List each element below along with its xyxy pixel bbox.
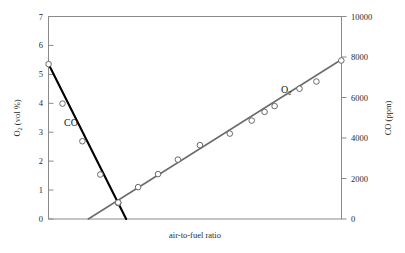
right-axis-ticks [342, 17, 347, 220]
left-tick-label-7: 7 [39, 12, 43, 22]
o2-point [314, 79, 320, 85]
left-tick-label-0: 0 [39, 214, 43, 224]
right-tick-label-4000: 4000 [351, 133, 368, 143]
o2-point [227, 131, 233, 137]
co-point [115, 200, 121, 206]
o2-point [272, 103, 278, 109]
right-tick-label-10000: 10000 [351, 12, 372, 22]
right-tick-label-8000: 8000 [351, 52, 368, 62]
plot-frame [49, 17, 342, 220]
left-tick-label-3: 3 [39, 127, 43, 137]
left-tick-label-4: 4 [39, 98, 44, 108]
o2-point [135, 184, 141, 190]
co-point [46, 61, 52, 67]
chart-canvas: 7 6 5 4 3 2 1 0 O2 (vol %) 10000 8000 60… [0, 0, 405, 253]
svg-text:O2 (vol %): O2 (vol %) [12, 99, 23, 136]
left-axis-title: O2 (vol %) [12, 99, 23, 136]
left-tick-label-1: 1 [39, 185, 43, 195]
o2-series-label: O2 [281, 84, 291, 96]
left-tick-label-2: 2 [39, 156, 43, 166]
co-point [60, 101, 66, 107]
left-axis-ticks [49, 17, 54, 220]
o2-point [339, 58, 345, 64]
chart-figure: 7 6 5 4 3 2 1 0 O2 (vol %) 10000 8000 60… [0, 0, 405, 253]
co-point [80, 138, 86, 144]
co-point [98, 172, 104, 178]
o2-trend-line [88, 60, 341, 220]
o2-point [262, 109, 268, 115]
x-axis-title: air-to-fuel ratio [169, 230, 221, 240]
o2-point [175, 157, 181, 163]
left-axis-title-rest: (vol %) [12, 99, 22, 127]
left-tick-label-6: 6 [39, 40, 43, 50]
o2-series-label-sub: 2 [288, 89, 291, 96]
right-tick-label-2000: 2000 [351, 174, 368, 184]
o2-point [155, 171, 161, 177]
right-axis-title: CO (ppm) [383, 100, 393, 135]
right-tick-label-6000: 6000 [351, 93, 368, 103]
right-axis-title-text: CO (ppm) [383, 100, 393, 135]
co-trend-line [49, 64, 127, 219]
o2-point [249, 118, 255, 124]
o2-point [297, 86, 303, 92]
o2-point [197, 142, 203, 148]
right-tick-label-0: 0 [351, 214, 355, 224]
left-tick-label-5: 5 [39, 69, 43, 79]
o2-series-label-main: O [281, 84, 288, 95]
co-series-label: CO [64, 117, 78, 128]
